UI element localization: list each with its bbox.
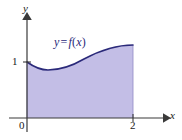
x-tick-label-2: 2 [130,120,136,131]
area-under-curve-figure: y x 1 0 2 y=f(x) [0,0,182,140]
function-equation-label: y=f(x) [54,36,86,48]
y-tick-label-1: 1 [12,56,18,67]
figure-canvas [0,0,182,140]
shaded-area-region [27,45,133,118]
equation-close-paren: ) [82,35,86,49]
origin-label: 0 [19,120,25,131]
y-axis-label: y [23,3,28,14]
equation-equals: = [60,35,69,49]
equation-y: y [54,35,60,49]
x-axis-label: x [170,110,175,121]
